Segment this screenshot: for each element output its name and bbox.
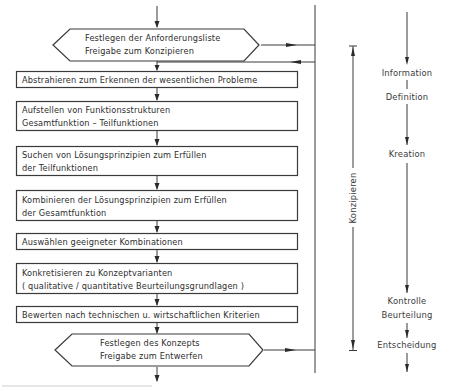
activity-label-information: Information — [382, 68, 433, 78]
step-text-line: Bewerten nach technischen u. wirtschaftl… — [22, 310, 260, 320]
activity-label-kontrolle: Kontrolle — [388, 296, 427, 306]
step-box-kombinieren: Kombinieren der Lösungsprinzipien zum Er… — [17, 191, 298, 221]
cropped-caption — [2, 385, 152, 387]
concept-phase-flowchart: Festlegen der Anforderungsliste Freigabe… — [0, 0, 452, 391]
step-box-abstrahieren: Abstrahieren zum Erkennen der wesentlich… — [17, 72, 298, 88]
step-text-line: Auswählen geeigneter Kombinationen — [22, 237, 183, 247]
step-text-line: Freigabe zum Entwerfen — [100, 351, 203, 361]
step-hexagon-konzept: Festlegen des Konzepts Freigabe zum Entw… — [55, 334, 263, 366]
step-box-bewerten: Bewerten nach technischen u. wirtschaftl… — [17, 307, 298, 323]
step-box-auswaehlen: Auswählen geeigneter Kombinationen — [17, 234, 298, 250]
step-text-line: Aufstellen von Funktionsstrukturen — [22, 105, 170, 115]
step-box-funktionsstrukturen: Aufstellen von Funktionsstrukturen Gesam… — [17, 102, 298, 131]
activity-label-entscheidung: Entscheidung — [377, 340, 436, 350]
activity-label-kreation: Kreation — [389, 149, 426, 159]
phase-bracket-konzipieren: Konzipieren — [348, 46, 358, 351]
activity-column: Information Definition Kreation Kontroll… — [377, 12, 436, 372]
phase-label: Konzipieren — [348, 173, 358, 224]
step-text-line: Gesamtfunktion – Teilfunktionen — [22, 118, 159, 128]
activity-label-definition: Definition — [386, 92, 429, 102]
step-text-line: Festlegen des Konzepts — [100, 338, 200, 348]
activity-label-beurteilung: Beurteilung — [382, 310, 433, 320]
step-box-konkretisieren: Konkretisieren zu Konzeptvarianten ( qua… — [17, 264, 298, 294]
step-text-line: Freigabe zum Konzipieren — [85, 46, 194, 56]
step-text-line: Abstrahieren zum Erkennen der wesentlich… — [22, 75, 257, 85]
step-text-line: Konkretisieren zu Konzeptvarianten — [22, 268, 172, 278]
step-hexagon-requirements: Festlegen der Anforderungsliste Freigabe… — [53, 29, 259, 61]
step-box-loesungsprinzipien: Suchen von Lösungsprinzipien zum Erfülle… — [17, 147, 298, 176]
step-text-line: Suchen von Lösungsprinzipien zum Erfülle… — [22, 150, 207, 160]
step-text-line: der Gesamtfunktion — [22, 208, 106, 218]
step-text-line: ( qualitative / quantitative Beurteilung… — [22, 281, 244, 291]
step-text-line: Kombinieren der Lösungsprinzipien zum Er… — [22, 195, 227, 205]
step-text-line: Festlegen der Anforderungsliste — [85, 33, 220, 43]
step-text-line: der Teilfunktionen — [22, 163, 98, 173]
